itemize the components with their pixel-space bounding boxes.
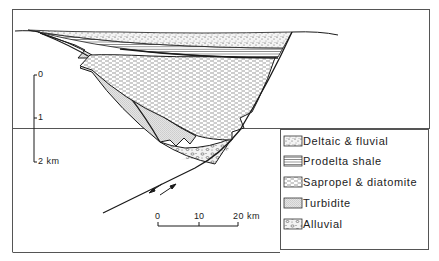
scale-tick-0: 0 bbox=[155, 211, 160, 221]
shear-arrows-icon bbox=[149, 184, 176, 195]
depth-scale bbox=[34, 75, 37, 162]
legend-label-deltaic: Deltaic & fluvial bbox=[303, 135, 388, 147]
legend-swatch-turbidite bbox=[284, 198, 302, 208]
legend-swatch-alluvial bbox=[284, 219, 302, 229]
legend-swatch-sapropel bbox=[284, 177, 302, 187]
legend-label-turbidite: Turbidite bbox=[303, 197, 351, 209]
legend-swatch-deltaic bbox=[284, 136, 302, 146]
depth-tick-0: 0 bbox=[38, 69, 43, 79]
scale-tick-20km: 20 km bbox=[233, 211, 260, 221]
horizontal-scale bbox=[158, 222, 238, 226]
cross-section-diagram bbox=[0, 0, 439, 261]
legend-label-sapropel: Sapropel & diatomite bbox=[303, 176, 417, 188]
scale-tick-10: 10 bbox=[194, 211, 204, 221]
legend-label-prodelta: Prodelta shale bbox=[303, 155, 382, 167]
depth-tick-1: 1 bbox=[38, 112, 43, 122]
legend-label-alluvial: Alluvial bbox=[303, 218, 343, 230]
legend-swatch-prodelta bbox=[284, 156, 302, 166]
legend-box bbox=[281, 130, 429, 250]
depth-tick-2km: 2 km bbox=[38, 156, 60, 166]
